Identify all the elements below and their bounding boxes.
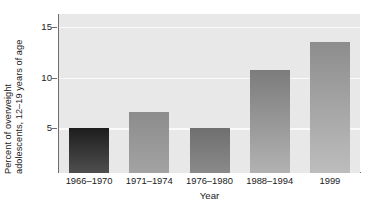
x-tick-label: 1971–1974 — [119, 175, 179, 186]
y-tick-mark-10 — [52, 78, 57, 79]
bar — [250, 70, 290, 173]
x-tick-label: 1966–1970 — [59, 175, 119, 186]
x-tick-label: 1999 — [300, 175, 360, 186]
chart-figure: Percent of overweight adolescents, 12–19… — [0, 0, 378, 217]
y-tick-label-5: 5 — [32, 122, 52, 133]
x-axis-title: Year — [59, 190, 360, 201]
x-tick-label: 1988–1994 — [240, 175, 300, 186]
x-tick-label: 1976–1980 — [179, 175, 239, 186]
plot-area — [59, 14, 360, 173]
y-tick-mark-15 — [52, 27, 57, 28]
bar — [310, 42, 350, 173]
bar — [190, 128, 230, 173]
y-axis-title-line-2: adolescents, 12–19 years of age — [14, 4, 24, 174]
bar — [69, 128, 109, 173]
y-axis-title-line-1: Percent of overweight — [3, 4, 13, 174]
y-tick-label-10: 10 — [32, 72, 52, 83]
x-axis-ticks: 1966–19701971–19741976–19801988–19941999 — [59, 175, 360, 191]
y-axis-ticks: 15 10 5 — [30, 0, 52, 180]
y-tick-label-15: 15 — [32, 21, 52, 32]
gridline-15 — [59, 27, 360, 28]
bar — [129, 112, 169, 173]
y-tick-mark-5 — [52, 128, 57, 129]
